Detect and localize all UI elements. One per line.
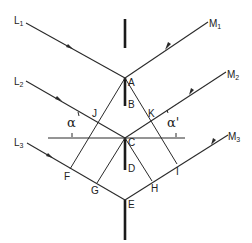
line-c-g — [97, 138, 125, 183]
alpha-tick-top — [78, 112, 79, 116]
label-alpha: α — [67, 115, 76, 130]
label-e: E — [128, 199, 135, 210]
label-c: C — [128, 137, 135, 148]
label-m3: M3 — [228, 131, 240, 143]
label-l1: L1 — [14, 15, 24, 27]
label-i: I — [176, 166, 179, 177]
label-g: G — [91, 185, 99, 196]
line-a-f — [70, 78, 125, 169]
label-f: F — [64, 171, 70, 182]
label-l3: L3 — [14, 137, 24, 149]
label-l2: L2 — [14, 76, 24, 88]
label-b: B — [128, 99, 135, 110]
label-alpha-prime: α' — [167, 115, 179, 130]
ray-m1 — [125, 22, 208, 78]
label-h: H — [151, 183, 158, 194]
label-m2: M2 — [227, 69, 239, 81]
label-j: J — [92, 108, 97, 119]
arrow-l1 — [66, 44, 73, 49]
ray-l1 — [26, 23, 125, 78]
label-d: D — [128, 163, 135, 174]
reflection-diagram: L1 L2 L3 M1 M2 M3 A B C D E F G H I J K … — [0, 0, 252, 243]
label-m1: M1 — [209, 18, 221, 30]
label-k: K — [148, 108, 155, 119]
arrow-l3 — [46, 153, 53, 158]
ray-l3 — [27, 143, 125, 200]
label-a: A — [128, 77, 135, 88]
